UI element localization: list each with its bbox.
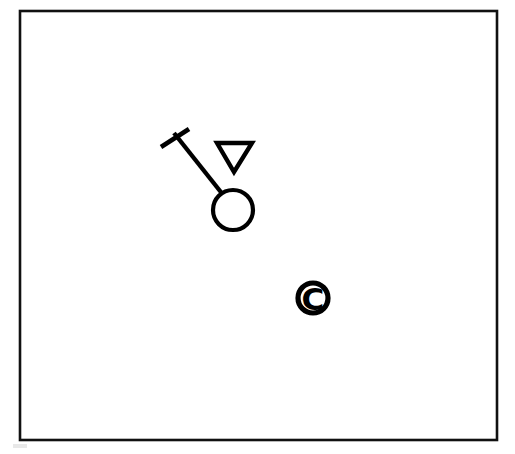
border-frame <box>20 11 497 440</box>
head-circle-icon <box>213 190 253 230</box>
scan-artifact <box>13 444 27 448</box>
figure-canvas: C <box>0 0 515 454</box>
copyright-icon: C <box>298 281 328 317</box>
figure-svg: C <box>0 0 515 454</box>
copyright-letter: C <box>302 281 325 317</box>
